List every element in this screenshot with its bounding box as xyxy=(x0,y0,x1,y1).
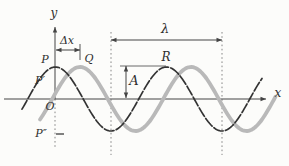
point-label-P: P xyxy=(40,53,49,66)
point-label-O: O xyxy=(45,100,54,113)
point-label-R: R xyxy=(160,50,170,64)
y-axis-label: y xyxy=(50,6,58,20)
point-label-P-prime: P′ xyxy=(34,74,45,87)
delta-x-label: Δx xyxy=(59,34,75,47)
x-axis-label: x xyxy=(275,86,282,100)
point-label-Q: Q xyxy=(84,52,93,65)
point-label-P-prime-double: P″ xyxy=(34,127,47,140)
wave-diagram-svg: yxΔxλAPP′P″QRO xyxy=(0,0,289,166)
lambda-label: λ xyxy=(160,21,169,36)
amplitude-label: A xyxy=(128,73,138,88)
y-axis-arrowhead xyxy=(53,27,57,33)
x-axis-arrowhead xyxy=(261,97,267,101)
wave-diagram-figure: yxΔxλAPP′P″QRO xyxy=(0,0,289,166)
